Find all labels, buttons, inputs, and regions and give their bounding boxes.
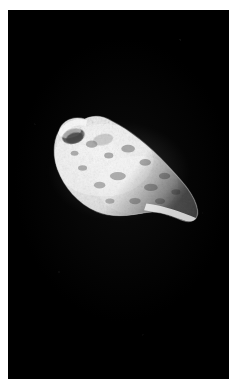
- figure-root: [0, 0, 233, 382]
- astronomical-photograph: [8, 10, 229, 379]
- cratered-body-render: [37, 105, 201, 238]
- cratered-body: [37, 105, 201, 238]
